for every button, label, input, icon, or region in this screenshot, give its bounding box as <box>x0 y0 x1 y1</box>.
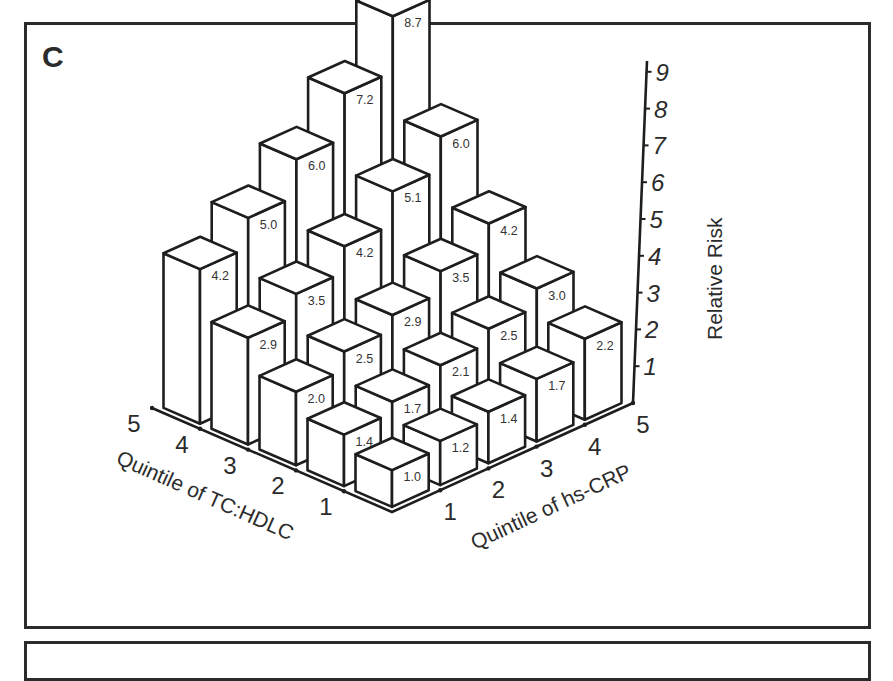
y-tick-label: 5 <box>636 411 649 438</box>
x-axis-title: Quintile of TC:HDLC <box>113 446 297 545</box>
bar-value-label: 1.0 <box>404 470 421 484</box>
bar-value-label: 6.0 <box>452 137 469 151</box>
z-tick-label: 9 <box>656 59 669 86</box>
x-tick-label: 4 <box>175 431 188 458</box>
bar-value-label: 3.5 <box>308 294 325 308</box>
z-tick-label: 7 <box>653 132 668 159</box>
bar: 1.0 <box>356 438 429 507</box>
bars: 8.77.26.06.05.14.25.04.23.53.04.23.52.92… <box>164 0 622 507</box>
bar-value-label: 1.7 <box>548 379 565 393</box>
bar-value-label: 5.1 <box>404 191 421 205</box>
bar-value-label: 2.9 <box>260 338 277 352</box>
bar-value-label: 2.0 <box>308 392 325 406</box>
z-tick-label: 1 <box>644 353 657 380</box>
bar-value-label: 7.2 <box>356 93 373 107</box>
y-tick-label: 4 <box>588 433 601 460</box>
bar-value-label: 4.2 <box>356 246 373 260</box>
y-tick-label: 1 <box>444 498 457 525</box>
z-axis-line <box>633 61 647 403</box>
bar-value-label: 2.9 <box>404 315 421 329</box>
z-tick-label: 5 <box>650 206 664 233</box>
z-tick-label: 2 <box>644 316 658 343</box>
z-tick-label: 6 <box>651 169 665 196</box>
bar-value-label: 1.4 <box>500 412 517 426</box>
z-tick-label: 3 <box>647 280 661 307</box>
bar-value-label: 6.0 <box>308 159 325 173</box>
bar-value-label: 5.0 <box>260 218 277 232</box>
bar-value-label: 8.7 <box>404 16 421 30</box>
bar-value-label: 3.0 <box>548 289 565 303</box>
y-tick-label: 3 <box>540 455 553 482</box>
x-tick-label: 3 <box>223 452 236 479</box>
x-tick-label: 2 <box>271 472 284 499</box>
bar-value-label: 2.2 <box>596 339 613 353</box>
x-tick-label: 1 <box>319 493 332 520</box>
bar-value-label: 3.5 <box>452 271 469 285</box>
bar-value-label: 1.7 <box>404 402 421 416</box>
z-axis-title: Relative Risk <box>703 217 726 340</box>
y-tick-label: 2 <box>492 476 505 503</box>
bar-value-label: 2.1 <box>452 365 469 379</box>
z-tick-label: 8 <box>654 96 668 123</box>
bar-value-label: 2.5 <box>356 352 373 366</box>
x-tick-label: 5 <box>127 410 140 437</box>
bar-value-label: 1.2 <box>452 441 469 455</box>
bar-value-label: 4.2 <box>212 269 229 283</box>
bar-value-label: 2.5 <box>500 329 517 343</box>
bar-value-label: 4.2 <box>500 224 517 238</box>
z-tick-label: 4 <box>648 243 661 270</box>
